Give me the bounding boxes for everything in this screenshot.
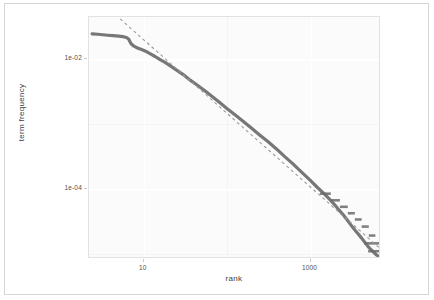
y-tick-label: 1e-02: [42, 54, 82, 61]
reference-dashed-line: [120, 19, 379, 247]
x-tick-mark: [310, 259, 311, 262]
data-series-line: [92, 34, 379, 257]
x-tick-mark: [143, 259, 144, 262]
chart-plot-area: term frequency rank 1e-021e-04101000: [0, 0, 434, 300]
chart-series-layer: [89, 17, 380, 258]
y-tick-label: 1e-04: [42, 184, 82, 191]
x-tick-label: 1000: [290, 264, 330, 271]
chart-panel: [88, 16, 380, 258]
y-tick-mark: [84, 188, 87, 189]
x-axis-title: rank: [194, 274, 274, 283]
y-axis-title: term frequency: [17, 68, 26, 158]
x-tick-label: 10: [123, 264, 163, 271]
y-tick-mark: [84, 58, 87, 59]
